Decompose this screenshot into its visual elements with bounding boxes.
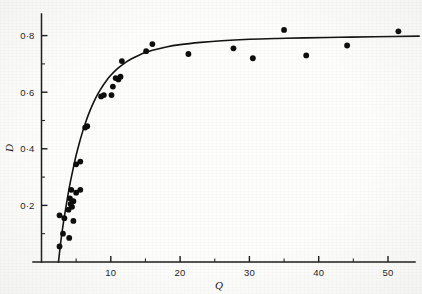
data-point — [61, 215, 67, 221]
data-point — [68, 187, 74, 193]
data-point — [109, 92, 115, 98]
x-tick-label: 30 — [244, 267, 255, 278]
x-axis-label: Q — [215, 279, 223, 291]
data-point — [60, 231, 66, 237]
data-point — [77, 159, 83, 165]
y-tick-label: 0·6 — [20, 87, 34, 98]
data-point — [67, 195, 73, 201]
y-tick-label: 0·2 — [20, 200, 34, 211]
data-point — [77, 187, 83, 193]
data-point — [303, 53, 309, 59]
data-point — [281, 27, 287, 33]
data-point — [66, 235, 72, 241]
x-tick-label: 20 — [175, 267, 186, 278]
fit-curve — [58, 36, 419, 262]
x-tick-label: 40 — [313, 267, 324, 278]
scatter-plot: 1020304050 0·20·40·60·8 Q D — [0, 0, 422, 294]
x-axis-major-ticks — [111, 256, 388, 262]
data-point — [118, 74, 124, 80]
data-point — [143, 48, 149, 54]
data-point — [57, 244, 63, 250]
x-axis-tick-labels: 1020304050 — [105, 267, 393, 278]
data-point — [231, 45, 237, 51]
y-tick-label: 0·8 — [20, 30, 34, 41]
data-point — [101, 92, 107, 98]
data-point — [84, 123, 90, 129]
data-point — [395, 28, 401, 34]
data-point — [70, 218, 76, 224]
data-points-group — [57, 27, 402, 249]
data-point — [110, 84, 116, 90]
data-point — [119, 58, 125, 64]
data-point — [57, 212, 63, 218]
axes-group — [33, 14, 415, 262]
figure-container: 1020304050 0·20·40·60·8 Q D — [0, 0, 422, 294]
data-point — [149, 41, 155, 47]
data-point — [344, 43, 350, 49]
data-point — [186, 51, 192, 57]
x-tick-label: 10 — [105, 267, 116, 278]
data-point — [250, 55, 256, 61]
x-tick-label: 50 — [383, 267, 394, 278]
y-axis-label: D — [3, 144, 15, 153]
y-axis-tick-labels: 0·20·40·60·8 — [20, 30, 34, 211]
y-tick-label: 0·4 — [20, 143, 34, 154]
